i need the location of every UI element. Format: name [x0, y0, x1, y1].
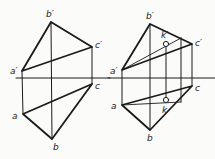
left-front-triangle: [22, 22, 92, 71]
label-right-k-prime: k′: [161, 30, 168, 40]
label-right-a: a: [111, 101, 117, 111]
diagram-svg: b′ c′ a′ c a b b′ k′ c′ a′ c a k b: [0, 0, 215, 159]
label-left-c: c: [95, 81, 100, 91]
label-right-b-prime: b′: [146, 11, 154, 21]
k-point-marker: [163, 97, 168, 102]
label-left-c-prime: c′: [95, 40, 102, 50]
k-prime-point-marker: [163, 41, 168, 46]
left-top-triangle: [23, 84, 92, 139]
label-left-b-prime: b′: [46, 9, 54, 19]
left-connector-a: [22, 71, 23, 114]
labels: b′ c′ a′ c a b b′ k′ c′ a′ c a k b: [10, 9, 202, 152]
projection-diagram: b′ c′ a′ c a b b′ k′ c′ a′ c a k b: [0, 0, 215, 159]
left-connector-b: [51, 22, 52, 139]
label-right-k: k: [162, 105, 168, 115]
label-left-a: a: [12, 111, 18, 121]
label-left-b: b: [53, 142, 59, 152]
label-right-b: b: [147, 133, 153, 143]
label-right-a-prime: a′: [110, 66, 118, 76]
label-left-a-prime: a′: [10, 66, 18, 76]
label-right-c-prime: c′: [195, 38, 202, 48]
label-right-c: c: [195, 83, 200, 93]
